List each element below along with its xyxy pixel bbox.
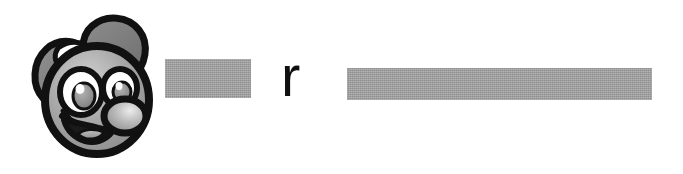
mascot-nose: [104, 99, 146, 133]
letter-r-text: r: [281, 48, 311, 104]
redaction-bar-first: redacted text block: [165, 59, 251, 98]
cartoon-bug-mascot-icon: [22, 8, 172, 166]
logo-banner: redacted text block r redacted text bloc…: [0, 0, 683, 174]
mascot-left-eye: [60, 69, 102, 115]
redaction-bar-second: redacted text block: [347, 68, 652, 100]
